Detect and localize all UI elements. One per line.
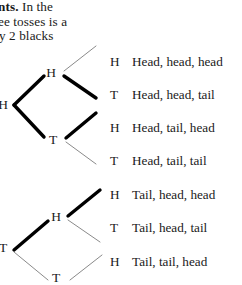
branch-h-to-leaf-t [64, 76, 96, 98]
page-root: nts. In the ee tosses is a y 2 blacks [0, 0, 242, 285]
branch-t-to-leaf-t [66, 142, 96, 164]
outcome-sequence-label: Head, head, head [132, 54, 223, 70]
outcome-sequence-label: Head, head, tail [132, 87, 215, 103]
outcome-toss-letter: T [110, 87, 132, 103]
outcome-toss-letter: T [110, 153, 132, 169]
prose-line-1-bold: nts. [0, 0, 19, 14]
outcome-sequence-label: Tail, tail, head [132, 254, 207, 270]
outcome-sequence-label: Tail, head, tail [132, 220, 207, 236]
outcome-row: HHead, head, head [110, 52, 223, 68]
branch-t-to-leaf-h [66, 113, 96, 138]
branch-root-h-to-h [14, 76, 44, 105]
outcome-row: HHead, tail, head [110, 118, 215, 134]
branch-lower-h-to-leaf-h [68, 190, 100, 216]
outcome-row: TTail, head, tail [110, 218, 207, 234]
outcome-toss-letter: H [110, 54, 132, 70]
branch-h-to-leaf-h [64, 46, 96, 71]
outcome-row: THead, tail, tail [110, 151, 207, 167]
outcome-row: THead, head, tail [110, 85, 215, 101]
outcome-toss-letter: H [110, 120, 132, 136]
tree-node-lower-t: T [49, 271, 63, 285]
outcome-sequence-label: Head, tail, tail [132, 153, 207, 169]
outcome-toss-letter: T [110, 220, 132, 236]
tree-node-level2-h: H [44, 66, 58, 80]
prose-line-2: ee tosses is a [0, 15, 130, 30]
branch-group-lower [14, 190, 102, 280]
branch-root-h-to-t [14, 105, 44, 137]
outcome-toss-letter: H [110, 254, 132, 270]
prose-line-1-rest: In the [22, 0, 53, 14]
branch-lower-h-to-leaf-t [68, 220, 100, 242]
outcome-sequence-label: Head, tail, head [132, 120, 215, 136]
tree-node-level2-t: T [46, 133, 60, 147]
branch-lower-t-to-leaf-h [70, 255, 102, 280]
outcome-sequence-label: Tail, head, head [132, 187, 215, 203]
prose-block: nts. In the ee tosses is a y 2 blacks [0, 0, 130, 44]
tree-node-root-t: T [0, 241, 10, 255]
branch-root-t-to-h [14, 221, 48, 250]
tree-node-lower-h: H [49, 210, 63, 224]
outcome-row: HTail, head, head [110, 185, 215, 201]
tree-node-root-h: H [0, 98, 10, 112]
outcome-row: HTail, tail, head [110, 252, 207, 268]
outcome-toss-letter: H [110, 187, 132, 203]
branch-root-t-to-t [14, 252, 48, 280]
prose-line-1: nts. In the [0, 0, 130, 15]
